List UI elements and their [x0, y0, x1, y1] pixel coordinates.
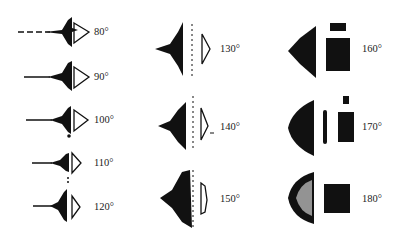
angle-label: 180°: [362, 193, 382, 204]
shape-180-icon: [0, 0, 401, 249]
